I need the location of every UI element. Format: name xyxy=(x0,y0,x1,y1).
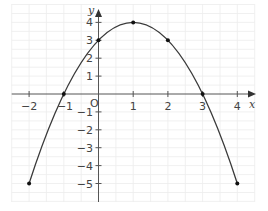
point-1-4 xyxy=(131,20,135,24)
point-2-3 xyxy=(166,38,170,42)
y-tick-label: −5 xyxy=(77,178,93,191)
x-tick-label: 2 xyxy=(164,100,171,113)
y-tick-label: −1 xyxy=(77,106,93,119)
point-neg2-neg5 xyxy=(27,182,31,186)
x-tick-label: 1 xyxy=(130,100,137,113)
point-0-3 xyxy=(97,38,101,42)
x-axis xyxy=(12,91,256,98)
y-axis-arrow-icon xyxy=(95,9,102,17)
x-axis-label: x xyxy=(249,98,256,111)
y-tick-label: 4 xyxy=(86,16,93,29)
x-tick-label: −2 xyxy=(21,100,37,113)
y-tick-label: −4 xyxy=(77,160,93,173)
point-3-0 xyxy=(201,92,205,96)
y-axis-label: y xyxy=(87,4,95,17)
y-tick-label: −3 xyxy=(77,142,93,155)
point-4-neg5 xyxy=(235,182,239,186)
y-tick-label: 3 xyxy=(86,34,93,47)
x-tick-label: 3 xyxy=(199,100,206,113)
y-tick-label: −2 xyxy=(77,124,93,137)
y-tick-label: 1 xyxy=(86,70,93,83)
y-tick-label: 2 xyxy=(86,52,93,65)
point-neg1-0 xyxy=(62,92,66,96)
x-tick-label: 4 xyxy=(234,100,241,113)
x-tick-label: −1 xyxy=(57,100,73,113)
parabola-chart: x y O −2 −1 1 2 3 4 4 3 2 1 −1 −2 −3 −4 … xyxy=(0,0,268,211)
